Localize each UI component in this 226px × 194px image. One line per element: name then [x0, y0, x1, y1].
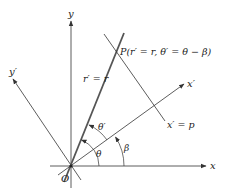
x-axis-label: x [210, 160, 216, 171]
y-axis-label: y [67, 8, 74, 19]
origin-point [69, 164, 72, 167]
x-prime-axis-label: x′ [187, 78, 196, 89]
theta-label: θ [96, 149, 102, 159]
coordinate-diagram: y x x′ y′ O P(r′ = r, θ′ = θ − β) r′ = r… [0, 0, 226, 194]
point-p-label: P(r′ = r, θ′ = θ − β) [119, 46, 211, 57]
beta-label: β [123, 143, 129, 153]
radial-line [64, 33, 124, 182]
y-prime-axis-label: y′ [8, 66, 18, 77]
theta-prime-label: θ′ [98, 122, 105, 132]
radial-line-label: r′ = r [83, 73, 110, 84]
x-prime-axis [58, 84, 184, 175]
x-prime-equals-p-label: x′ = p [167, 119, 195, 130]
origin-label: O [61, 173, 69, 184]
beta-arc [116, 137, 125, 166]
